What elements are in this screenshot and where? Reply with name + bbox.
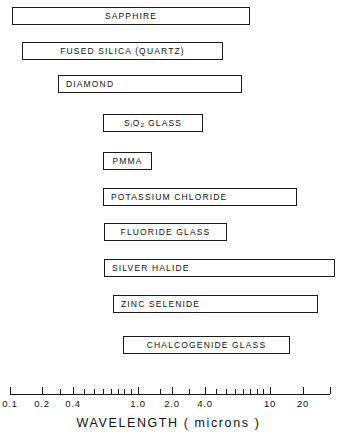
axis-tick-label: 10 — [264, 398, 276, 409]
axis-minor-tick — [103, 389, 104, 394]
material-bar: ZINC SELENIDE — [113, 295, 318, 313]
axis-minor-tick — [60, 389, 61, 394]
material-bar-label: CHALCOGENIDE GLASS — [124, 341, 289, 350]
material-bar: PMMA — [103, 152, 152, 170]
material-bar: SAPPHIRE — [12, 7, 250, 25]
axis-minor-tick — [84, 389, 85, 394]
axis-minor-tick — [94, 389, 95, 394]
material-bar-label: DIAMOND — [59, 80, 121, 89]
axis-minor-tick — [226, 389, 227, 394]
axis-minor-tick — [189, 389, 190, 394]
axis-tick-label: 0.4 — [65, 398, 81, 409]
axis-tick-label: 4.0 — [197, 398, 213, 409]
axis-minor-tick — [131, 389, 132, 394]
axis-major-tick — [42, 387, 43, 394]
axis-major-tick — [10, 387, 11, 394]
axis-tick-label: 1.0 — [130, 398, 146, 409]
optical-materials-transmission-chart: SAPPHIREFUSED SILICA (QUARTZ)DIAMONDSiO2… — [0, 0, 337, 443]
axis-tick-label: 20 — [297, 398, 309, 409]
axis-major-tick — [205, 387, 206, 394]
axis-minor-tick — [243, 389, 244, 394]
material-bar-label: FLUORIDE GLASS — [105, 228, 226, 237]
axis-minor-tick — [160, 389, 161, 394]
material-bar: FUSED SILICA (QUARTZ) — [22, 42, 223, 60]
axis-major-tick — [303, 387, 304, 394]
material-bar: DIAMOND — [58, 75, 242, 93]
material-bar: CHALCOGENIDE GLASS — [123, 336, 290, 354]
axis-title: WAVELENGTH ( microns ) — [0, 416, 337, 430]
material-bar-label: SILVER HALIDE — [105, 264, 197, 273]
axis-tick-label: 2.0 — [164, 398, 180, 409]
axis-minor-tick — [216, 389, 217, 394]
material-bar: SiO2 GLASS — [103, 114, 203, 132]
material-bar-label: PMMA — [104, 157, 151, 166]
axis-major-tick — [172, 387, 173, 394]
material-bar: FLUORIDE GLASS — [104, 223, 227, 241]
axis-minor-tick — [257, 389, 258, 394]
axis-tick-label: 0.2 — [34, 398, 50, 409]
material-bar: SILVER HALIDE — [104, 259, 335, 277]
material-bar-label: SAPPHIRE — [13, 12, 249, 21]
axis-minor-tick — [250, 389, 251, 394]
axis-minor-tick — [118, 389, 119, 394]
axis-major-tick — [330, 387, 331, 394]
axis-minor-tick — [124, 389, 125, 394]
axis-major-tick — [138, 387, 139, 394]
axis-major-tick — [73, 387, 74, 394]
axis-minor-tick — [111, 389, 112, 394]
axis-minor-tick — [263, 389, 264, 394]
axis-tick-label: 0.1 — [2, 398, 18, 409]
material-bar-label: FUSED SILICA (QUARTZ) — [23, 47, 222, 56]
material-bar: POTASSIUM CHLORIDE — [103, 188, 297, 206]
axis-minor-tick — [235, 389, 236, 394]
axis-major-tick — [270, 387, 271, 394]
material-bar-label: SiO2 GLASS — [104, 119, 202, 128]
axis-baseline — [10, 394, 330, 395]
wavelength-axis: 0.10.20.41.02.04.01020 WAVELENGTH ( micr… — [0, 0, 337, 443]
material-bar-label: ZINC SELENIDE — [114, 300, 207, 309]
material-bar-label: POTASSIUM CHLORIDE — [104, 193, 234, 202]
